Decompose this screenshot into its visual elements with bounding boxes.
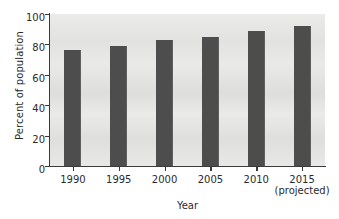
bar <box>294 26 311 166</box>
bar-chart-figure: Percent of population 020406080100 19901… <box>0 0 339 219</box>
x-tick-mark <box>302 167 303 171</box>
x-tick-mark <box>256 167 257 171</box>
y-tick-mark <box>45 105 49 106</box>
y-axis-line <box>49 13 50 167</box>
y-tick-mark <box>45 75 49 76</box>
y-tick-label: 40 <box>18 104 45 114</box>
x-tick-mark <box>210 167 211 171</box>
x-axis-line <box>49 166 326 167</box>
x-tick-label: 2015(projected) <box>272 174 332 196</box>
y-tick-label: 0 <box>18 165 45 175</box>
y-tick-label: 20 <box>18 135 45 145</box>
y-tick-mark <box>45 44 49 45</box>
y-tick-mark <box>45 166 49 167</box>
bar <box>64 50 81 166</box>
x-tick-mark <box>73 167 74 171</box>
y-tick-label: 80 <box>18 43 45 53</box>
bar <box>156 40 173 166</box>
y-axis-tick-labels: 020406080100 <box>18 9 45 167</box>
x-tick-mark <box>119 167 120 171</box>
y-tick-label: 60 <box>18 74 45 84</box>
plot-background-texture <box>50 14 325 166</box>
y-tick-mark <box>45 14 49 15</box>
x-tick-mark <box>165 167 166 171</box>
x-axis-title: Year <box>50 200 325 211</box>
bar <box>110 46 127 166</box>
bar <box>202 37 219 166</box>
bar <box>248 31 265 166</box>
plot-area <box>50 14 325 166</box>
y-tick-label: 100 <box>18 13 45 23</box>
y-tick-mark <box>45 136 49 137</box>
x-tick-sublabel: (projected) <box>272 185 332 196</box>
